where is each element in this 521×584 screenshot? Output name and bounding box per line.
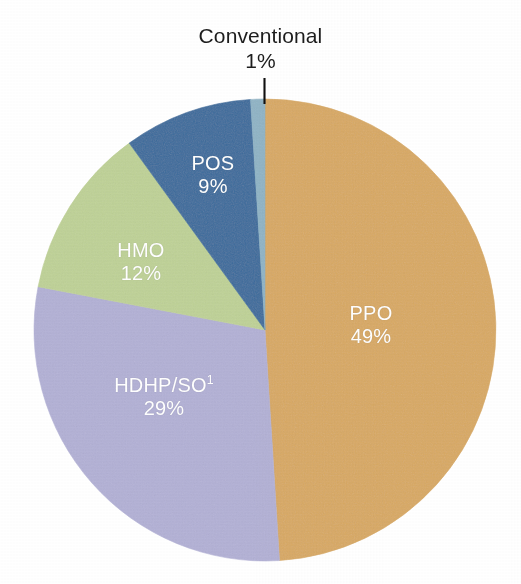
conventional-callout-label: Conventional xyxy=(0,24,521,49)
conventional-callout: Conventional 1% xyxy=(0,24,521,74)
slice-label-pos-name: POS xyxy=(192,152,235,175)
slice-label-hdhpso-name: HDHP/SO1 xyxy=(114,374,214,397)
slice-label-hmo: HMO 12% xyxy=(117,239,164,285)
slice-label-ppo-name: PPO xyxy=(350,302,393,325)
slice-label-hmo-value: 12% xyxy=(117,262,164,285)
pie-chart: Conventional 1% PPO 49% HDHP/SO1 29% HMO… xyxy=(0,0,521,584)
pie-slices-group xyxy=(34,99,496,561)
slice-label-hdhpso-footnote-marker: 1 xyxy=(207,373,214,387)
slice-label-ppo: PPO 49% xyxy=(350,302,393,348)
slice-label-hdhpso: HDHP/SO1 29% xyxy=(114,374,214,420)
pie-slice-hdhp-so xyxy=(34,287,280,561)
slice-label-pos-value: 9% xyxy=(192,175,235,198)
slice-label-hdhpso-value: 29% xyxy=(114,397,214,420)
slice-label-pos: POS 9% xyxy=(192,152,235,198)
slice-label-hdhpso-text: HDHP/SO xyxy=(114,374,207,396)
slice-label-hmo-name: HMO xyxy=(117,239,164,262)
conventional-callout-value: 1% xyxy=(0,49,521,74)
slice-label-ppo-value: 49% xyxy=(350,325,393,348)
pie-chart-canvas xyxy=(0,0,521,584)
